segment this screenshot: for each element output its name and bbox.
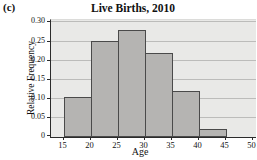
bar-15-20 bbox=[64, 97, 92, 137]
y-axis-tick bbox=[47, 60, 50, 61]
y-axis-tick bbox=[47, 41, 50, 42]
y-axis-tick-label: 0.10 bbox=[31, 93, 45, 103]
x-axis-tick-label: 15 bbox=[55, 140, 71, 150]
bar-25-30 bbox=[118, 30, 146, 137]
x-axis-tick-label: 25 bbox=[109, 140, 125, 150]
x-axis-tick-label: 40 bbox=[190, 140, 206, 150]
y-axis-tick-label: 0 bbox=[41, 131, 45, 141]
x-axis: 1520253035404550 bbox=[50, 137, 256, 151]
y-axis-tick bbox=[47, 98, 50, 99]
y-axis: 0.300.250.200.150.100.050 bbox=[0, 19, 50, 137]
y-axis-tick bbox=[47, 21, 50, 22]
y-axis-tick bbox=[47, 117, 50, 118]
bar-30-35 bbox=[145, 53, 173, 137]
gridline-0.25 bbox=[51, 41, 256, 42]
x-axis-tick-label: 50 bbox=[244, 140, 257, 150]
y-axis-tick-label: 0.15 bbox=[31, 74, 45, 84]
bar-20-25 bbox=[91, 41, 119, 137]
figure-label: (c) bbox=[3, 1, 15, 13]
plot-area bbox=[50, 19, 256, 138]
y-axis-tick-label: 0.25 bbox=[31, 36, 45, 46]
y-axis-tick-label: 0.05 bbox=[31, 112, 45, 122]
chart-title: Live Births, 2010 bbox=[91, 2, 175, 14]
gridline-0.3 bbox=[51, 21, 256, 22]
x-axis-tick-label: 20 bbox=[82, 140, 98, 150]
histogram-figure: (c) Live Births, 2010 Relative Frequency… bbox=[0, 0, 256, 160]
y-axis-tick-label: 0.30 bbox=[31, 16, 45, 26]
y-axis-tick bbox=[47, 135, 50, 136]
bar-35-40 bbox=[172, 91, 200, 137]
y-axis-tick-label: 0.20 bbox=[31, 55, 45, 65]
bar-40-45 bbox=[199, 129, 227, 137]
x-axis-tick-label: 35 bbox=[163, 140, 179, 150]
x-axis-title: Age bbox=[132, 146, 149, 157]
x-axis-tick-label: 45 bbox=[217, 140, 233, 150]
y-axis-tick bbox=[47, 79, 50, 80]
